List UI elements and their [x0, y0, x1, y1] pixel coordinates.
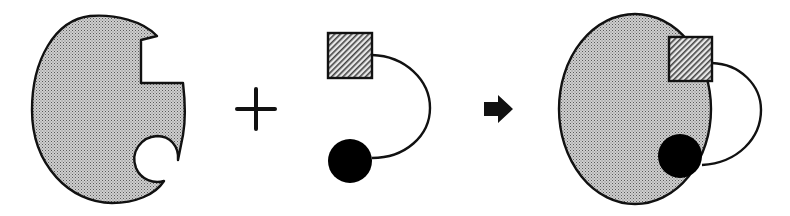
- complex-square: [669, 37, 712, 81]
- receptor-body: [32, 16, 185, 203]
- complex-circle: [658, 134, 702, 178]
- ligand-circle: [328, 139, 372, 183]
- ligand: [328, 33, 430, 183]
- ligand-linker: [372, 55, 430, 158]
- binding-diagram: [0, 0, 790, 216]
- ligand-square: [328, 33, 372, 78]
- receptor: [32, 16, 185, 203]
- plus-icon: [237, 89, 275, 129]
- arrow-right-icon: [484, 95, 513, 123]
- complex: [559, 14, 761, 204]
